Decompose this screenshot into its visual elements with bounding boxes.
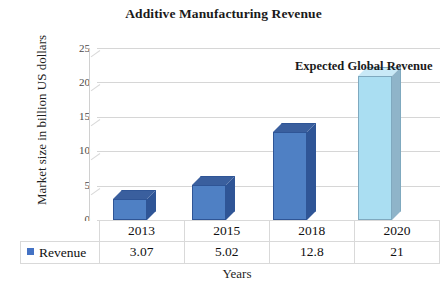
y-tick-25: 25 [64,42,90,54]
value-cell-2013: 3.07 [99,242,184,264]
value-cell-2015: 5.02 [184,242,269,264]
category-cell-2015: 2015 [184,221,269,242]
bar-2013-front-face [113,199,147,220]
legend-entry-revenue: Revenue [21,242,100,264]
bar-2018-side-face [307,123,316,220]
y-axis-ticks: 25 20 15 10 5 0 [62,48,90,220]
bar-2020 [358,76,392,220]
y-axis-title: Market size in billion US dollars [34,20,50,220]
x-axis-title: Years [97,266,377,282]
bar-2015 [192,185,226,220]
value-cell-2018: 12.8 [269,242,354,264]
category-cell-2020: 2020 [354,221,439,242]
value-cell-2020: 21 [354,242,439,264]
bar-2020-side-face [392,67,401,220]
table-row-categories: 2013 2015 2018 2020 [21,221,440,242]
legend-label: Revenue [39,245,86,260]
expected-global-revenue-annotation: Expected Global Revenue [295,59,433,74]
bar-2015-front-face [192,185,226,220]
bar-2018-front-face [273,132,307,220]
gridline-riser-25 [91,50,101,57]
gridline-riser-10 [91,153,101,160]
square-marker-icon [27,248,34,255]
chart-title: Additive Manufacturing Revenue [0,6,447,22]
bar-2015-side-face [226,176,235,220]
y-tick-15: 15 [64,110,90,122]
gridline-25 [97,48,440,49]
gridline-riser-20 [91,84,101,91]
y-tick-10: 10 [64,144,90,156]
category-cell-2018: 2018 [269,221,354,242]
table-row-values: Revenue 3.07 5.02 12.8 21 [21,242,440,264]
y-axis-line [89,48,90,228]
y-tick-20: 20 [64,76,90,88]
y-tick-5: 5 [64,179,90,191]
bar-2018 [273,132,307,220]
bar-2013 [113,199,147,220]
data-table: 2013 2015 2018 2020 Revenue 3.07 5.02 12… [20,220,440,264]
bar-2020-front-face [358,76,392,220]
gridline-riser-5 [91,188,101,195]
chart-figure: Additive Manufacturing Revenue Market si… [0,0,447,293]
category-cell-2013: 2013 [99,221,184,242]
table-corner-cell [21,221,100,242]
gridline-riser-15 [91,119,101,126]
